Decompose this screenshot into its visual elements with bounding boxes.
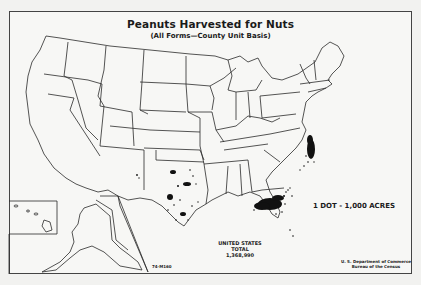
state-boundaries [26, 36, 344, 226]
map-subtitle: (All Forms—County Unit Basis) [0, 32, 421, 40]
map-title: Peanuts Harvested for Nuts [0, 18, 421, 30]
peanut-dot-clusters [136, 135, 315, 237]
total-value: 1,368,990 [210, 252, 270, 258]
source-credit: U. S. Department of Commerce Bureau of t… [340, 259, 412, 269]
dot-legend: 1 DOT - 1,000 ACRES [313, 202, 395, 210]
us-total: UNITED STATES TOTAL 1,368,990 [210, 240, 270, 258]
inset-boundaries [9, 196, 148, 274]
credit-line2: Bureau of the Census [340, 264, 412, 269]
map-code: 74-M160 [152, 264, 172, 269]
